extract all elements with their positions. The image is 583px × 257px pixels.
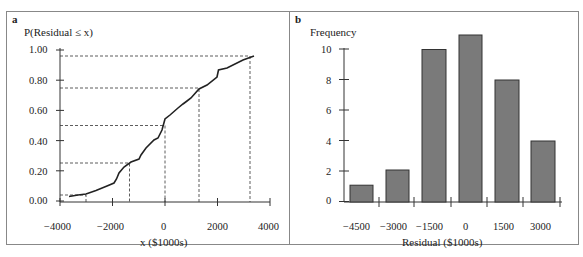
bar-0 xyxy=(459,35,482,202)
cdf-curve xyxy=(69,56,254,197)
panel-b-histogram-chart: b Frequency 10 8 6 4 2 0 −4500 −3000 −15… xyxy=(289,11,579,245)
bar-1500 xyxy=(495,80,519,202)
bar-neg3000 xyxy=(386,170,409,202)
panel-a-cdf-chart: a P(Residual ≤ x) 1.00 0.80 0.60 0.40 0.… xyxy=(6,11,291,245)
cdf-plot-area xyxy=(7,12,290,244)
bar-3000 xyxy=(531,141,555,202)
histogram-plot-area xyxy=(290,12,578,244)
histogram-bars xyxy=(350,35,555,202)
bar-neg4500 xyxy=(350,185,373,202)
bar-neg1500 xyxy=(422,50,446,203)
